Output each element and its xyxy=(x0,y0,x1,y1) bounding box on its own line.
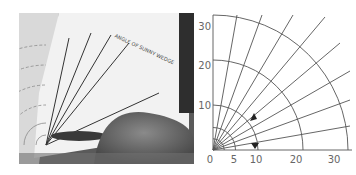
x-tick-30: 30 xyxy=(328,154,341,165)
x-tick-0: 0 xyxy=(207,154,213,165)
y-tick-10: 10 xyxy=(198,100,211,111)
radial-50deg xyxy=(213,17,325,150)
y-tick-20: 20 xyxy=(198,60,211,71)
y-tick-30: 30 xyxy=(198,21,211,32)
x-tick-10: 10 xyxy=(250,154,263,165)
protractor-photo: ANGLE OF SUNNY WEDGE xyxy=(19,13,194,164)
polar-grid-svg: 0 5 10 20 30 10 20 30 xyxy=(195,0,356,175)
x-tick-5: 5 xyxy=(231,154,237,165)
protractor-photo-graphic: ANGLE OF SUNNY WEDGE xyxy=(19,13,194,164)
x-tick-20: 20 xyxy=(290,154,303,165)
polar-grid-diagram: 0 5 10 20 30 10 20 30 xyxy=(195,0,356,175)
